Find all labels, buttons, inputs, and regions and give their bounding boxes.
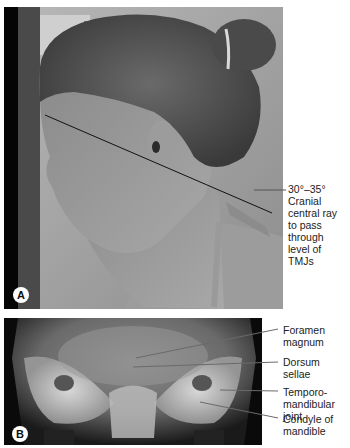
label-line: Temporo- [283, 386, 350, 398]
label-line: Foramen [283, 324, 325, 336]
label-line: Dorsum [283, 356, 320, 368]
label-dorsum-sellae: Dorsum sellae [283, 356, 320, 380]
label-foramen-magnum: Foramen magnum [283, 324, 325, 348]
label-condyle-of-mandible: Condyle of mandible [283, 413, 333, 437]
label-line: Condyle of [283, 413, 333, 425]
label-line: magnum [283, 336, 325, 348]
label-line: sellae [283, 368, 320, 380]
radiograph-leader-lines [0, 0, 350, 448]
label-line: mandible [283, 425, 333, 437]
